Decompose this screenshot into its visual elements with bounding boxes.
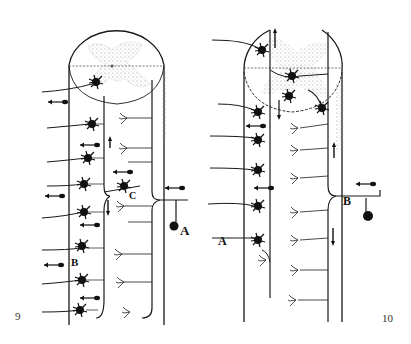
figure-9: A B C — [42, 31, 190, 325]
label-A-fig10: A — [218, 234, 227, 248]
label-B-fig9: B — [71, 256, 79, 268]
figure-number-10: 10 — [382, 312, 393, 324]
label-A-fig9: A — [180, 223, 190, 238]
figure-number-9: 9 — [15, 310, 21, 322]
motor-neuron-column-left — [208, 40, 269, 266]
sensory-branches — [114, 113, 152, 318]
neuron-diagram: A B C — [0, 0, 411, 344]
label-C-fig9: C — [129, 190, 136, 201]
figure-10: B A — [208, 28, 380, 322]
label-B-fig10: B — [343, 194, 351, 208]
sensory-branches — [288, 123, 328, 306]
